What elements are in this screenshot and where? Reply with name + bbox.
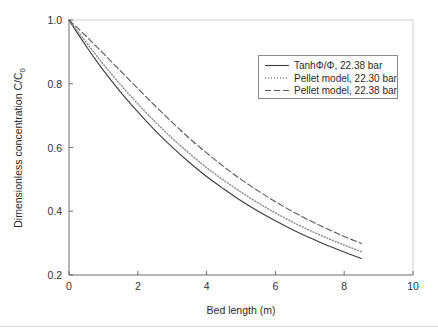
y-tick-label: 0.8 bbox=[47, 78, 62, 90]
y-tick-label: 0.2 bbox=[47, 269, 62, 281]
x-axis-ticks bbox=[69, 271, 413, 275]
y-tick-label: 0.6 bbox=[47, 142, 62, 154]
x-tick-label: 8 bbox=[341, 280, 347, 292]
y-axis-tick-labels: 0.20.40.60.81.0 bbox=[47, 14, 62, 281]
y-tick-label: 0.4 bbox=[47, 205, 62, 217]
series-line bbox=[69, 20, 361, 243]
x-tick-label: 4 bbox=[204, 280, 210, 292]
series-line bbox=[69, 20, 361, 252]
legend: TanhΦ/Φ, 22.38 barPellet model, 22.30 ba… bbox=[259, 56, 398, 99]
x-tick-label: 0 bbox=[66, 280, 72, 292]
x-axis-title: Bed length (m) bbox=[207, 304, 276, 316]
x-axis-tick-labels: 0246810 bbox=[66, 280, 419, 292]
legend-label: TanhΦ/Φ, 22.38 bar bbox=[294, 60, 383, 71]
legend-label: Pellet model, 22.30 bar bbox=[294, 73, 398, 84]
y-axis-title-group: Dimensionless concentration C/C0 bbox=[12, 68, 27, 227]
x-tick-label: 2 bbox=[135, 280, 141, 292]
chart-canvas: 0246810 0.20.40.60.81.0 Bed length (m) D… bbox=[0, 0, 438, 328]
y-tick-label: 1.0 bbox=[47, 14, 62, 26]
scan-artifact-line bbox=[0, 326, 438, 327]
y-axis-ticks bbox=[69, 20, 73, 275]
x-tick-label: 6 bbox=[272, 280, 278, 292]
legend-label: Pellet model, 22.38 bar bbox=[294, 85, 398, 96]
x-tick-label: 10 bbox=[407, 280, 419, 292]
y-axis-title: Dimensionless concentration C/C0 bbox=[12, 68, 27, 227]
figure-container: 0246810 0.20.40.60.81.0 Bed length (m) D… bbox=[0, 0, 438, 328]
